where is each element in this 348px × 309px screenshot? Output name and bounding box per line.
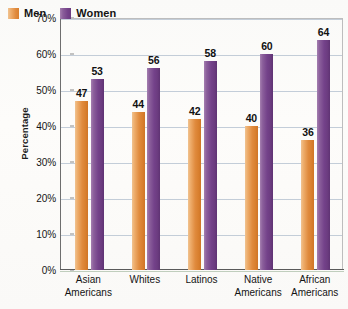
bar-women-asian-americans[interactable] (91, 79, 104, 270)
y-axis-tick-label: 50% (16, 85, 56, 96)
y-axis-tick-label: 60% (16, 49, 56, 60)
bar-men-african-americans[interactable] (301, 140, 314, 270)
legend-swatch-icon (60, 8, 71, 19)
legend-swatch-icon (8, 8, 19, 19)
bar-value-label: 36 (302, 126, 313, 138)
chart-legend: MenWomen (8, 7, 116, 19)
bar-men-asian-americans[interactable] (75, 101, 88, 270)
bar-value-label: 47 (76, 87, 87, 99)
bar-value-label: 56 (148, 54, 159, 66)
bar-value-label: 42 (189, 105, 200, 117)
bar-women-whites[interactable] (147, 68, 160, 270)
y-axis-tick-labels: 0%10%20%30%40%50%60%70% (14, 0, 56, 309)
bar-value-label: 60 (261, 40, 272, 52)
bar-value-label: 58 (205, 47, 216, 59)
y-axis-tick-label: 30% (16, 157, 56, 168)
category-label-line: Americans (45, 287, 131, 300)
legend-item-women[interactable]: Women (60, 7, 116, 19)
bar-women-african-americans[interactable] (317, 40, 330, 270)
bar-women-latinos[interactable] (204, 61, 217, 270)
bar-value-label: 64 (318, 26, 329, 38)
bar-value-label: 44 (133, 98, 144, 110)
y-axis-tick-label: 40% (16, 121, 56, 132)
bar-value-label: 53 (91, 65, 102, 77)
category-label-line: African (272, 274, 348, 287)
legend-item-men[interactable]: Men (8, 7, 46, 19)
bar-series-container: 47534456425840603664 (61, 19, 342, 270)
x-axis-line-tint (60, 271, 344, 272)
bar-chart: Percentage 0%10%20%30%40%50%60%70% 47534… (0, 0, 348, 309)
x-axis-category-label: AfricanAmericans (272, 274, 348, 299)
y-axis-tick-label: 10% (16, 229, 56, 240)
category-label-line: Americans (272, 287, 348, 300)
bar-value-label: 40 (246, 112, 257, 124)
bar-men-native-americans[interactable] (245, 126, 258, 270)
y-axis-tick-label: 20% (16, 193, 56, 204)
bar-men-latinos[interactable] (188, 119, 201, 270)
bar-men-whites[interactable] (132, 112, 145, 270)
plot-area: 47534456425840603664 (60, 18, 343, 270)
bar-women-native-americans[interactable] (260, 54, 273, 270)
legend-label: Women (76, 7, 116, 19)
x-axis-category-labels: AsianAmericansWhitesLatinosNativeAmerica… (60, 274, 344, 309)
legend-label: Men (24, 7, 46, 19)
